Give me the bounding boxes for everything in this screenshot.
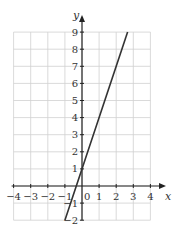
y-tick-label: 7 (72, 61, 78, 72)
x-tick-label: 2 (113, 191, 119, 202)
x-tick-label: 1 (96, 191, 102, 202)
y-tick-label: 2 (72, 146, 78, 157)
x-axis-arrow-icon (159, 183, 166, 189)
x-tick-label: −3 (23, 191, 38, 202)
x-axis-label: x (165, 190, 172, 203)
y-tick-label: 1 (72, 163, 78, 174)
y-tick-label: 3 (72, 129, 78, 140)
y-tick-label: 8 (72, 44, 78, 55)
x-tick-label: 4 (147, 191, 153, 202)
y-tick-label: 6 (72, 78, 78, 89)
y-axis-label: y (72, 9, 80, 22)
x-tick-label: 3 (130, 191, 136, 202)
y-axis-arrow-icon (79, 15, 85, 22)
y-tick-label: 5 (72, 95, 78, 106)
y-tick-label: 9 (72, 27, 78, 38)
line-chart: −4−3−2−11234−2−11234567890xy (0, 0, 173, 231)
y-tick-label: 4 (72, 112, 78, 123)
x-tick-label: −4 (6, 191, 21, 202)
x-tick-label: −2 (40, 191, 55, 202)
origin-label: 0 (84, 191, 90, 202)
